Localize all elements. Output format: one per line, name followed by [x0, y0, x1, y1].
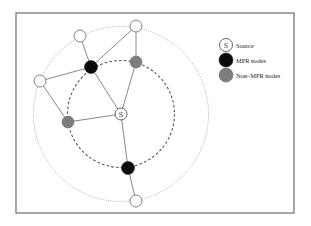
node-plain-left	[34, 75, 46, 87]
edge-left-nonmpr2	[40, 81, 68, 122]
edge-source-mpr2	[121, 114, 128, 168]
legend: S Source MPR nodes Non–MPR nodes	[219, 39, 281, 83]
node-plain-top-left	[74, 30, 86, 42]
edge-nonmpr2-source	[68, 114, 121, 122]
node-plain-top-right	[130, 20, 142, 32]
node-mpr-lower	[122, 162, 135, 175]
legend-nonmpr-icon	[219, 68, 233, 82]
node-mpr-upper	[85, 61, 98, 74]
legend-source-label: Source	[236, 42, 254, 49]
legend-source-symbol: S	[224, 42, 228, 50]
node-nonmpr-lower	[62, 116, 74, 128]
source-node-label: S	[119, 111, 123, 119]
edge-nonmpr1-source	[121, 62, 136, 114]
legend-mpr-icon	[219, 53, 233, 67]
node-plain-bottom	[130, 195, 142, 207]
edge-mpr1-left	[40, 67, 91, 81]
edge-mpr1-source	[91, 67, 121, 114]
network-diagram: S S Source MPR nodes Non–MPR nodes	[0, 0, 311, 226]
nodes: S	[34, 20, 142, 207]
legend-nonmpr-label: Non–MPR nodes	[236, 72, 281, 79]
node-nonmpr-upper	[130, 56, 142, 68]
legend-mpr-label: MPR nodes	[236, 57, 267, 64]
